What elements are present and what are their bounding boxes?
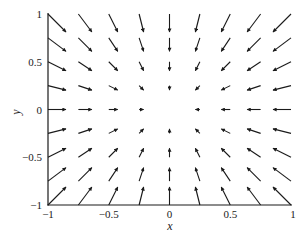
vector-arrow [109, 168, 118, 182]
vector-arrow [273, 129, 291, 134]
vector-arrow [247, 187, 261, 205]
vector-arrow [195, 38, 200, 52]
vector-arrow [273, 38, 291, 52]
vector-arrow [109, 14, 118, 32]
x-tick-label: −0.5 [99, 208, 119, 220]
vector-arrow [48, 187, 66, 205]
vector-arrow [221, 187, 230, 205]
vector-arrow [221, 14, 230, 32]
vector-arrow [139, 62, 144, 71]
vector-arrow [139, 14, 144, 32]
vector-arrow [273, 62, 291, 71]
y-tick-label: −0.5 [22, 151, 42, 163]
vector-arrow [109, 38, 118, 52]
y-tick-label: 0 [37, 104, 43, 116]
vector-arrow [48, 129, 66, 134]
vector-arrow [48, 86, 66, 91]
vector-arrow [78, 129, 92, 134]
vector-arrow [247, 168, 261, 182]
x-tick-label: −1 [42, 208, 54, 220]
vector-arrow [78, 38, 92, 52]
vector-arrows [48, 14, 291, 205]
vector-arrow [78, 86, 92, 91]
vector-arrow [78, 148, 92, 157]
vector-arrow [109, 187, 118, 205]
y-tick-label: −1 [30, 199, 42, 211]
vector-arrow [195, 86, 200, 91]
vector-arrow [48, 168, 66, 182]
vector-arrow [109, 86, 118, 91]
vector-arrow [139, 148, 144, 157]
vector-arrow [48, 14, 66, 32]
vector-arrow [221, 168, 230, 182]
vector-arrow [273, 187, 291, 205]
vector-arrow [273, 86, 291, 91]
vector-arrow [195, 129, 200, 134]
vector-arrow [221, 129, 230, 134]
y-axis-label: y [9, 109, 23, 116]
vector-arrow [139, 168, 144, 182]
x-tick-label: 1 [290, 208, 296, 220]
vector-arrow [48, 148, 66, 157]
vector-field-plot: −1−0.500.51 −1−0.500.51 x y [0, 0, 306, 242]
x-tick-label: 0.5 [223, 208, 237, 220]
vector-arrow [109, 62, 118, 71]
vector-arrow [195, 62, 200, 71]
vector-arrow [139, 86, 144, 91]
vector-arrow [139, 129, 144, 134]
vector-arrow [78, 187, 92, 205]
vector-arrow [273, 14, 291, 32]
vector-arrow [247, 86, 261, 91]
vector-arrow [195, 148, 200, 157]
vector-arrow [247, 129, 261, 134]
y-axis-ticks: −1−0.500.51 [22, 8, 42, 211]
vector-arrow [139, 38, 144, 52]
vector-arrow [195, 187, 200, 205]
vector-arrow [139, 187, 144, 205]
vector-arrow [247, 148, 261, 157]
y-tick-label: 0.5 [28, 56, 42, 68]
x-axis-label: x [166, 219, 173, 233]
vector-arrow [221, 148, 230, 157]
y-tick-label: 1 [37, 8, 43, 20]
vector-arrow [247, 62, 261, 71]
vector-arrow [109, 129, 118, 134]
vector-arrow [195, 14, 200, 32]
vector-arrow [221, 86, 230, 91]
vector-arrow [195, 168, 200, 182]
vector-arrow [48, 38, 66, 52]
vector-arrow [48, 62, 66, 71]
vector-arrow [273, 168, 291, 182]
vector-arrow [78, 14, 92, 32]
vector-arrow [221, 38, 230, 52]
vector-arrow [247, 38, 261, 52]
vector-arrow [221, 62, 230, 71]
vector-arrow [109, 148, 118, 157]
vector-arrow [247, 14, 261, 32]
vector-arrow [273, 148, 291, 157]
vector-arrow [78, 168, 92, 182]
vector-arrow [78, 62, 92, 71]
